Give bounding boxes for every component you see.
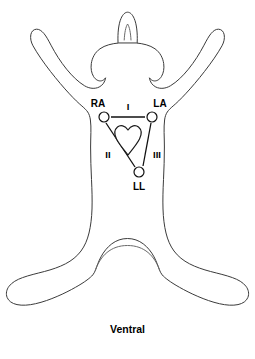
left-leg-electrode[interactable] [134, 167, 144, 177]
left-leg-electrode-label: LL [133, 181, 145, 192]
dog-head-outline [118, 12, 137, 44]
dog-torso-and-limbs-outline [6, 29, 248, 305]
lead-three-label: III [153, 149, 161, 160]
left-arm-electrode-label: LA [153, 98, 166, 109]
lead-two-label: II [105, 149, 110, 160]
ventral-body-figure-main: RA LA LL I II III Ventral [0, 0, 255, 359]
left-arm-electrode[interactable] [147, 112, 157, 122]
right-arm-electrode-label: RA [91, 98, 105, 109]
orientation-label: Ventral [110, 323, 145, 335]
ecg-lead-placement-diagram: RA LA LL I II III Ventral [0, 0, 255, 359]
lead-one-label: I [127, 101, 130, 112]
right-arm-electrode[interactable] [99, 112, 109, 122]
